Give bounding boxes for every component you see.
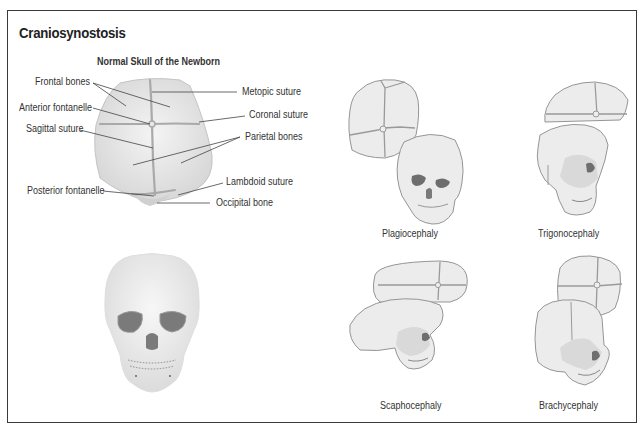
caption-plagiocephaly: Plagiocephaly	[382, 228, 438, 239]
trigonocephaly-illustration	[537, 82, 628, 215]
label-lambdoid-suture: Lambdoid suture	[226, 176, 293, 187]
label-parietal-bones: Parietal bones	[245, 131, 303, 142]
label-occipital-bone: Occipital bone	[216, 197, 273, 208]
brachycephaly-illustration	[535, 256, 622, 385]
label-posterior-fontanelle: Posterior fontanelle	[27, 185, 105, 196]
caption-trigonocephaly: Trigonocephaly	[538, 228, 599, 239]
label-frontal-bones: Frontal bones	[35, 76, 90, 87]
newborn-skull-top-view	[95, 79, 213, 206]
caption-brachycephaly: Brachycephaly	[539, 400, 598, 411]
adult-skull-front-view	[105, 254, 199, 393]
label-anterior-fontanelle: Anterior fontanelle	[19, 102, 92, 113]
skull-illustrations	[0, 0, 643, 431]
label-coronal-suture: Coronal suture	[249, 109, 308, 120]
label-metopic-suture: Metopic suture	[242, 86, 301, 97]
plagiocephaly-illustration	[349, 80, 463, 224]
caption-scaphocephaly: Scaphocephaly	[380, 400, 442, 411]
scaphocephaly-illustration	[350, 261, 468, 369]
label-sagittal-suture: Sagittal suture	[26, 123, 84, 134]
